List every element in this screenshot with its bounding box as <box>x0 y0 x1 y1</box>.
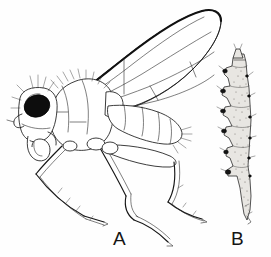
hindleg-tibia-edge <box>172 161 180 204</box>
larva-anterior-segment <box>233 49 243 58</box>
panel-a-fly <box>7 10 221 246</box>
midleg-tibia <box>125 196 134 220</box>
figure-container: A B <box>0 0 271 257</box>
midleg-tibia-edge <box>131 194 138 217</box>
coxa-hind <box>102 142 118 154</box>
fly-head <box>7 75 57 161</box>
larva-body <box>222 54 251 220</box>
midleg-tarsus-edge <box>136 216 170 239</box>
coxa-fore <box>63 141 77 151</box>
larva-left-papillae <box>220 69 230 174</box>
panel-b-larva <box>217 44 256 224</box>
larva-posterior-tip <box>247 216 251 224</box>
foreleg-tarsus <box>84 216 104 222</box>
panel-label-b: B <box>231 229 244 248</box>
midleg-tarsus <box>134 220 168 242</box>
foreleg-claw <box>103 222 108 226</box>
figure-illustration <box>0 0 271 257</box>
hindleg-tibia <box>168 162 175 202</box>
arista <box>7 120 14 122</box>
midleg-claw <box>167 242 173 246</box>
panel-label-a: A <box>113 229 126 248</box>
larva-anterior-bristles <box>234 44 242 49</box>
foreleg-bristles <box>58 188 93 220</box>
